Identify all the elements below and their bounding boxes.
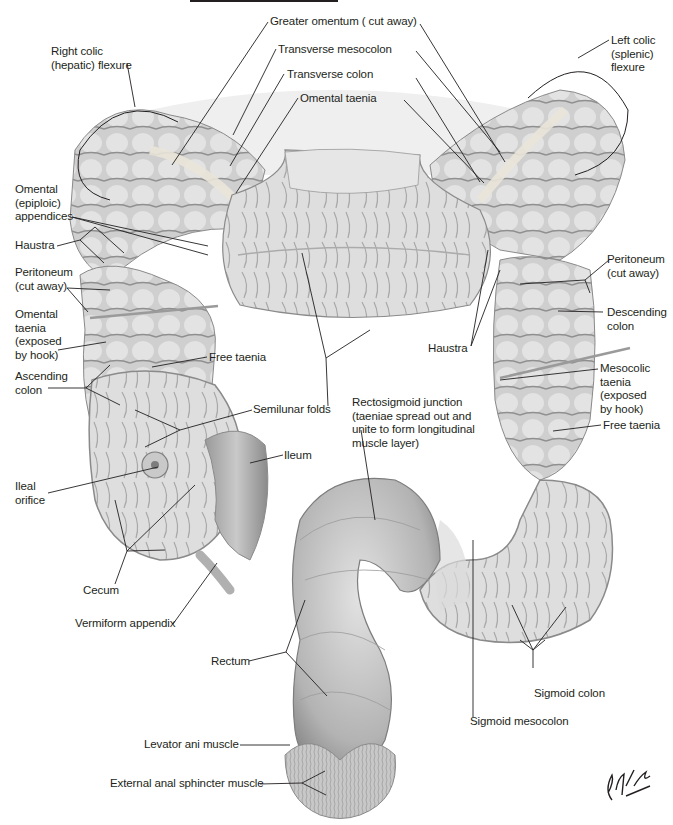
label-levator-ani: Levator ani muscle — [144, 738, 239, 752]
rectum-shape — [293, 478, 441, 775]
label-rectosigmoid-junction: Rectosigmoid junction (taeniae spread ou… — [352, 396, 475, 450]
label-cecum: Cecum — [83, 584, 119, 598]
label-sigmoid-colon: Sigmoid colon — [534, 687, 605, 701]
label-haustra-right: Haustra — [428, 342, 468, 356]
label-rectum: Rectum — [211, 655, 250, 669]
label-omental-taenia-top: Omental taenia — [300, 92, 377, 106]
label-ascending-colon: Ascending colon — [15, 370, 68, 397]
label-descending-colon: Descending colon — [607, 306, 667, 333]
appendix-shape — [200, 555, 230, 590]
label-free-taenia-left: Free taenia — [209, 351, 266, 365]
label-ileal-orifice: Ileal orifice — [15, 480, 45, 507]
title-underline — [190, 0, 338, 2]
label-ileum: Ileum — [284, 449, 312, 463]
label-haustra-left: Haustra — [15, 239, 55, 253]
label-mesocolic-taenia: Mesocolic taenia (exposed by hook) — [600, 362, 650, 416]
artist-signature — [608, 770, 650, 800]
label-right-colic-flexure: Right colic (hepatic) flexure — [51, 45, 132, 72]
label-omental-appendices: Omental (epiploic) appendices — [15, 183, 73, 224]
label-external-anal-sphincter: External anal sphincter muscle — [110, 777, 264, 791]
label-vermiform-appendix: Vermiform appendix — [75, 617, 175, 631]
label-transverse-mesocolon: Transverse mesocolon — [278, 43, 392, 57]
label-peritoneum-right: Peritoneum (cut away) — [607, 253, 665, 280]
label-transverse-colon: Transverse colon — [287, 68, 373, 82]
label-semilunar-folds: Semilunar folds — [253, 403, 331, 417]
label-sigmoid-mesocolon: Sigmoid mesocolon — [470, 715, 569, 729]
label-greater-omentum: Greater omentum ( cut away) — [270, 15, 417, 29]
label-left-colic-flexure: Left colic (splenic) flexure — [611, 34, 655, 75]
label-peritoneum-left: Peritoneum (cut away) — [15, 266, 73, 293]
label-omental-taenia-hook: Omental taenia (exposed by hook) — [15, 308, 62, 362]
colon-illustration — [0, 0, 673, 825]
label-free-taenia-right: Free taenia — [603, 419, 660, 433]
